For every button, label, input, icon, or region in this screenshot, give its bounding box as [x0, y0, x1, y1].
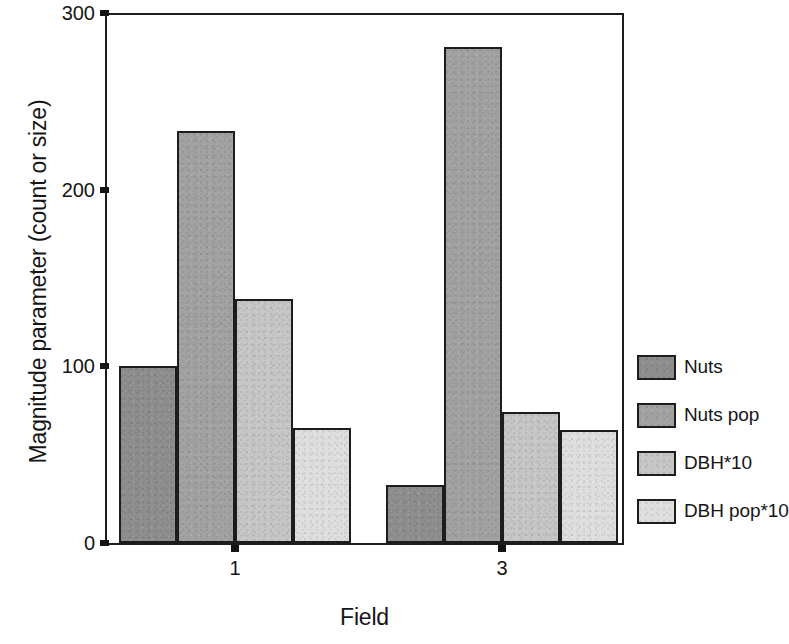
y-tick-label: 0: [84, 533, 95, 553]
bar: [502, 412, 560, 543]
legend-label: Nuts: [684, 356, 723, 378]
x-tick-mark: [231, 545, 239, 552]
y-tick-mark: [100, 10, 109, 16]
bar: [386, 485, 444, 543]
plot-frame-top: [105, 13, 624, 15]
bar: [235, 299, 293, 543]
y-axis-title: Magnitude parameter (count or size): [25, 12, 52, 552]
y-tick-mark: [100, 540, 109, 546]
bar-chart-figure: Magnitude parameter (count or size) Fiel…: [0, 0, 789, 644]
legend-swatch: [637, 403, 676, 428]
legend-swatch: [637, 451, 676, 476]
y-tick-label: 300: [62, 3, 95, 23]
y-tick-mark: [100, 363, 109, 369]
y-tick-label: 100: [62, 356, 95, 376]
bar: [119, 366, 177, 543]
plot-frame-left: [105, 13, 107, 545]
plot-area: 0100200300 13: [105, 13, 624, 545]
bar: [293, 428, 351, 543]
legend-item-4[interactable]: DBH pop*10: [637, 496, 789, 526]
legend-swatch: [637, 355, 676, 380]
legend-item-1[interactable]: Nuts: [637, 352, 723, 382]
legend-item-2[interactable]: Nuts pop: [637, 400, 759, 430]
x-tick-label: 3: [462, 557, 542, 580]
legend-label: DBH*10: [684, 452, 752, 474]
legend-label: Nuts pop: [684, 404, 759, 426]
legend-item-3[interactable]: DBH*10: [637, 448, 752, 478]
legend-label: DBH pop*10: [684, 500, 789, 522]
x-tick-mark: [498, 545, 506, 552]
bar: [444, 47, 502, 543]
bar: [177, 131, 235, 543]
x-tick-label: 1: [195, 557, 275, 580]
plot-frame-right: [622, 13, 624, 545]
x-axis-title: Field: [105, 604, 624, 631]
plot-frame-bottom: [105, 543, 624, 545]
legend-swatch: [637, 499, 676, 524]
y-tick-mark: [100, 187, 109, 193]
bar: [560, 430, 618, 543]
y-tick-label: 200: [62, 180, 95, 200]
